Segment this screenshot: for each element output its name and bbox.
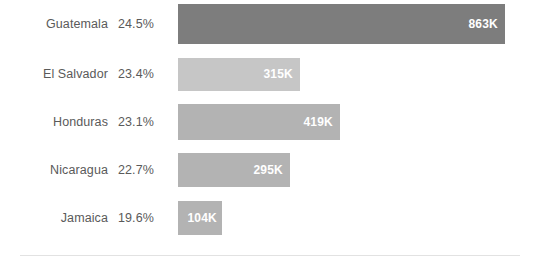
category-label: El Salvador [0, 67, 108, 81]
bar-value-label: 863K [469, 17, 499, 31]
bar-honduras[interactable]: 419K [178, 104, 340, 140]
bar-nicaragua[interactable]: 295K [178, 153, 290, 187]
bar-container: 419K [178, 98, 340, 146]
chart-row: Jamaica 19.6% 104K [0, 194, 534, 242]
chart-row: El Salvador 23.4% 315K [0, 50, 534, 98]
chart-row: Guatemala 24.5% 863K [0, 0, 534, 48]
percent-label: 19.6% [118, 211, 170, 225]
category-label: Honduras [0, 115, 108, 129]
bar-value-label: 295K [254, 163, 284, 177]
percent-label: 24.5% [118, 17, 170, 31]
chart-divider-line [20, 255, 520, 256]
bar-value-label: 104K [188, 211, 218, 225]
bar-container: 863K [178, 0, 505, 48]
horizontal-bar-chart: Guatemala 24.5% 863K El Salvador 23.4% 3… [0, 0, 534, 267]
percent-label: 23.1% [118, 115, 170, 129]
percent-label: 23.4% [118, 67, 170, 81]
bar-jamaica[interactable]: 104K [178, 201, 222, 235]
bar-guatemala[interactable]: 863K [178, 4, 505, 44]
bar-container: 295K [178, 146, 290, 194]
bar-value-label: 419K [304, 115, 334, 129]
chart-row: Honduras 23.1% 419K [0, 98, 534, 146]
percent-label: 22.7% [118, 163, 170, 177]
bar-value-label: 315K [264, 67, 294, 81]
bar-container: 104K [178, 194, 222, 242]
category-label: Nicaragua [0, 163, 108, 177]
category-label: Jamaica [0, 211, 108, 225]
chart-row: Nicaragua 22.7% 295K [0, 146, 534, 194]
category-label: Guatemala [0, 17, 108, 31]
bar-container: 315K [178, 50, 300, 98]
bar-el-salvador[interactable]: 315K [178, 58, 300, 91]
